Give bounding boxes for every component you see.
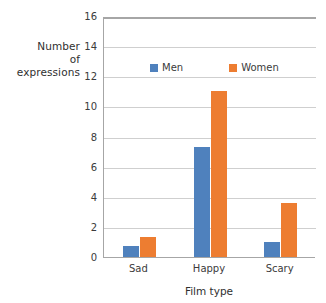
gridline: [104, 47, 316, 48]
y-axis-tick-label: 12: [73, 72, 97, 82]
bar-sad-men: [123, 246, 139, 257]
y-axis-title-line-1: Number: [2, 40, 80, 53]
x-axis-title: Film type: [103, 285, 315, 297]
y-axis-tick-label: 14: [73, 42, 97, 52]
y-axis-tick-label: 2: [73, 223, 97, 233]
legend-swatch-men-icon: [150, 64, 158, 72]
legend-label-men: Men: [162, 62, 183, 73]
bar-happy-women: [211, 91, 227, 257]
legend-entry-men: Men: [150, 62, 183, 73]
chart-legend: Men Women: [150, 62, 279, 73]
bar-sad-women: [140, 237, 156, 257]
bar-chart: Number of expressions 0246810121416 Men …: [0, 0, 326, 303]
y-axis-tick-label: 8: [73, 133, 97, 143]
plot-area: [103, 17, 315, 258]
bar-scary-men: [264, 242, 280, 257]
y-axis-title-line-3: expressions: [2, 66, 80, 79]
y-axis-title: Number of expressions: [2, 40, 80, 79]
y-axis-tick-label: 4: [73, 193, 97, 203]
y-axis-tick-label: 16: [73, 12, 97, 22]
legend-entry-women: Women: [229, 62, 279, 73]
x-axis-tick-label-scary: Scary: [250, 263, 310, 274]
y-axis-tick-label: 10: [73, 102, 97, 112]
bar-scary-women: [281, 203, 297, 257]
legend-label-women: Women: [241, 62, 279, 73]
y-axis-title-line-2: of: [2, 53, 80, 66]
gridline: [104, 17, 316, 19]
y-axis-tick-label: 0: [73, 253, 97, 263]
y-axis-tick-label: 6: [73, 163, 97, 173]
gridline: [104, 77, 316, 78]
x-axis-tick-label-happy: Happy: [179, 263, 239, 274]
bar-happy-men: [194, 147, 210, 257]
x-axis-tick-label-sad: Sad: [108, 263, 168, 274]
legend-swatch-women-icon: [229, 64, 237, 72]
